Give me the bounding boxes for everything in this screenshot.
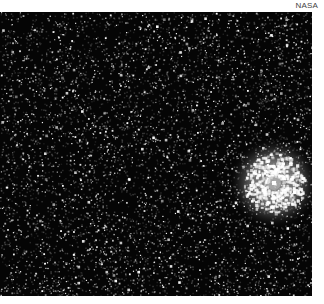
starfield-canvas <box>0 12 312 296</box>
image-credit: NASA <box>295 1 318 11</box>
starfield-photo <box>0 12 312 296</box>
